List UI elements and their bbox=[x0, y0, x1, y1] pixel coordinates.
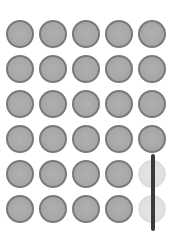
circle-r2-c1 bbox=[6, 55, 34, 83]
circle-r4-c4 bbox=[105, 125, 133, 153]
circle-r6-c2 bbox=[39, 195, 67, 223]
circle-r2-c3 bbox=[72, 55, 100, 83]
circle-r6-c4 bbox=[105, 195, 133, 223]
circle-r4-c1 bbox=[6, 125, 34, 153]
circle-r1-c1 bbox=[6, 20, 34, 48]
circle-r2-c4 bbox=[105, 55, 133, 83]
circle-r5-c4 bbox=[105, 160, 133, 188]
circle-r3-c3 bbox=[72, 90, 100, 118]
vertical-bar bbox=[151, 154, 155, 231]
circle-r3-c5 bbox=[138, 90, 166, 118]
circle-r1-c3 bbox=[72, 20, 100, 48]
circle-r3-c1 bbox=[6, 90, 34, 118]
circle-r2-c5 bbox=[138, 55, 166, 83]
circle-r5-c3 bbox=[72, 160, 100, 188]
circle-r4-c5 bbox=[138, 125, 166, 153]
circle-r5-c2 bbox=[39, 160, 67, 188]
circle-r1-c5 bbox=[138, 20, 166, 48]
circle-r6-c3 bbox=[72, 195, 100, 223]
circle-r4-c3 bbox=[72, 125, 100, 153]
circle-r5-c1 bbox=[6, 160, 34, 188]
circle-r2-c2 bbox=[39, 55, 67, 83]
circle-r3-c4 bbox=[105, 90, 133, 118]
circle-r1-c2 bbox=[39, 20, 67, 48]
circle-r3-c2 bbox=[39, 90, 67, 118]
circle-r1-c4 bbox=[105, 20, 133, 48]
circle-r4-c2 bbox=[39, 125, 67, 153]
circle-r6-c1 bbox=[6, 195, 34, 223]
